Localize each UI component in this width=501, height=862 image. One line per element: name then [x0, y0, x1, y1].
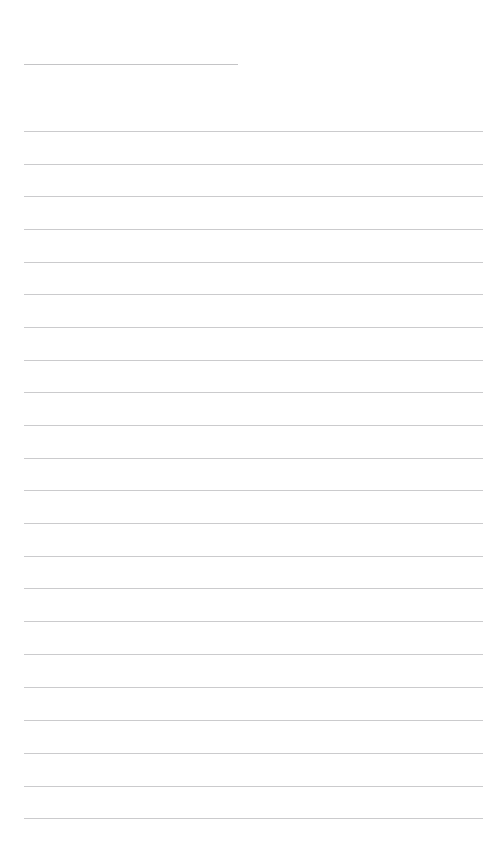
body-line-4[interactable] — [24, 209, 483, 229]
body-line-18[interactable] — [24, 667, 483, 687]
page-canvas — [0, 0, 501, 862]
body-line-8[interactable] — [24, 340, 483, 360]
body-rule-16 — [24, 621, 483, 622]
body-line-17[interactable] — [24, 634, 483, 654]
body-line-21[interactable] — [24, 766, 483, 786]
body-rule-11 — [24, 458, 483, 459]
body-line-7[interactable] — [24, 307, 483, 327]
body-rule-22 — [24, 818, 483, 819]
body-line-14[interactable] — [24, 536, 483, 556]
body-line-15[interactable] — [24, 568, 483, 588]
body-line-6[interactable] — [24, 274, 483, 294]
body-rule-4 — [24, 229, 483, 230]
body-rule-8 — [24, 360, 483, 361]
title-input[interactable] — [24, 44, 238, 64]
body-rule-10 — [24, 425, 483, 426]
body-line-13[interactable] — [24, 503, 483, 523]
body-rule-2 — [24, 164, 483, 165]
body-line-22[interactable] — [24, 798, 483, 818]
body-line-11[interactable] — [24, 438, 483, 458]
body-rule-20 — [24, 753, 483, 754]
body-line-10[interactable] — [24, 405, 483, 425]
body-rule-1 — [24, 131, 483, 132]
body-rule-21 — [24, 786, 483, 787]
body-rule-12 — [24, 490, 483, 491]
body-rule-3 — [24, 196, 483, 197]
body-line-20[interactable] — [24, 733, 483, 753]
body-rule-17 — [24, 654, 483, 655]
body-rule-19 — [24, 720, 483, 721]
body-line-2[interactable] — [24, 144, 483, 164]
body-rule-18 — [24, 687, 483, 688]
body-rule-13 — [24, 523, 483, 524]
body-line-1[interactable] — [24, 111, 483, 131]
body-rule-9 — [24, 392, 483, 393]
body-rule-6 — [24, 294, 483, 295]
body-rule-5 — [24, 262, 483, 263]
body-line-19[interactable] — [24, 700, 483, 720]
body-line-16[interactable] — [24, 601, 483, 621]
body-rule-15 — [24, 588, 483, 589]
body-line-9[interactable] — [24, 372, 483, 392]
body-line-5[interactable] — [24, 242, 483, 262]
body-rule-14 — [24, 556, 483, 557]
body-line-3[interactable] — [24, 176, 483, 196]
bottom-margin — [0, 819, 501, 862]
title-rule — [24, 64, 238, 65]
body-rule-7 — [24, 327, 483, 328]
top-margin — [0, 0, 501, 50]
body-line-12[interactable] — [24, 470, 483, 490]
